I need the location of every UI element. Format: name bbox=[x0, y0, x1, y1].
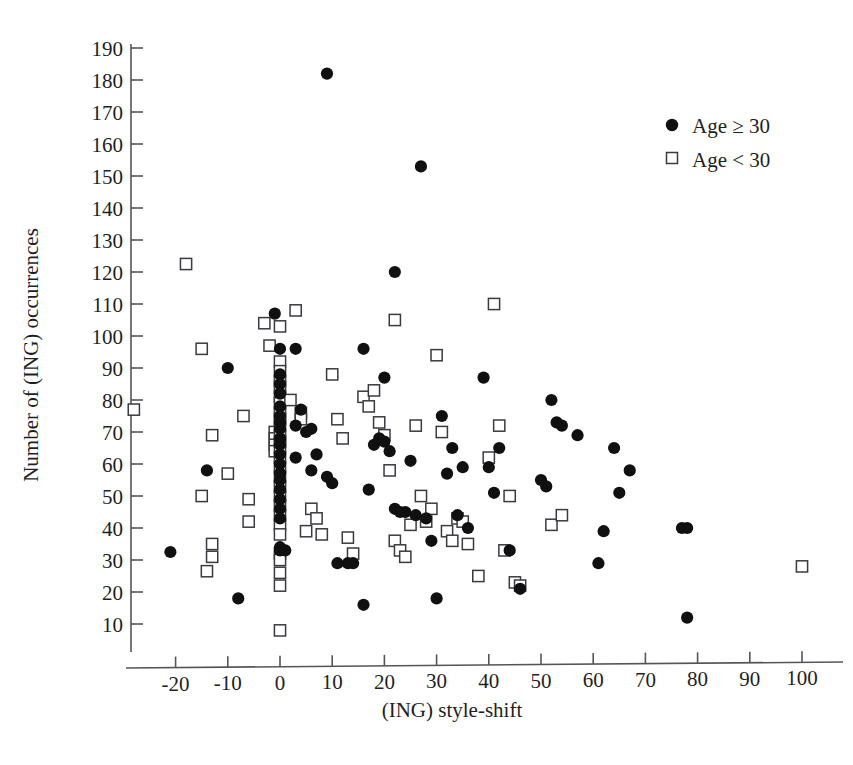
data-point-filled-circle bbox=[321, 68, 333, 80]
data-point-filled-circle bbox=[613, 487, 625, 499]
data-point-filled-circle bbox=[571, 429, 583, 441]
data-point-filled-circle bbox=[624, 464, 636, 476]
data-point-open-square bbox=[128, 404, 139, 415]
data-point-filled-circle bbox=[493, 442, 505, 454]
series-age-under-30-points bbox=[128, 258, 807, 636]
data-point-filled-circle bbox=[279, 544, 291, 556]
data-point-filled-circle bbox=[384, 445, 396, 457]
data-point-filled-circle bbox=[681, 612, 693, 624]
data-point-open-square bbox=[337, 433, 348, 444]
y-tick-label: 60 bbox=[102, 453, 123, 477]
data-point-filled-circle bbox=[451, 509, 463, 521]
data-point-open-square bbox=[462, 538, 473, 549]
data-point-filled-circle bbox=[222, 362, 234, 374]
data-point-filled-circle bbox=[389, 266, 401, 278]
data-point-filled-circle bbox=[592, 557, 604, 569]
data-point-filled-circle bbox=[446, 442, 458, 454]
data-point-open-square bbox=[415, 490, 426, 501]
data-point-open-square bbox=[332, 414, 343, 425]
y-tick-label: 100 bbox=[92, 325, 124, 349]
y-tick-label: 70 bbox=[102, 421, 123, 445]
data-point-filled-circle bbox=[269, 308, 281, 320]
data-point-open-square bbox=[389, 314, 400, 325]
data-point-open-square bbox=[259, 318, 270, 329]
data-point-filled-circle bbox=[457, 461, 469, 473]
data-point-open-square bbox=[201, 566, 212, 577]
data-point-open-square bbox=[238, 410, 249, 421]
data-point-filled-circle bbox=[290, 452, 302, 464]
data-point-open-square bbox=[274, 580, 285, 591]
legend-marker-open-square bbox=[667, 153, 678, 164]
data-point-filled-circle bbox=[305, 423, 317, 435]
data-point-open-square bbox=[180, 258, 191, 269]
data-point-filled-circle bbox=[310, 448, 322, 460]
data-point-open-square bbox=[316, 529, 327, 540]
y-axis-title: Number of (ING) occurrences bbox=[19, 228, 43, 482]
data-point-filled-circle bbox=[431, 592, 443, 604]
data-point-open-square bbox=[504, 490, 515, 501]
data-point-filled-circle bbox=[164, 546, 176, 558]
data-point-filled-circle bbox=[331, 557, 343, 569]
y-tick-label: 50 bbox=[102, 485, 123, 509]
data-point-open-square bbox=[274, 321, 285, 332]
data-point-open-square bbox=[488, 298, 499, 309]
x-tick-label: -20 bbox=[162, 672, 190, 696]
data-point-open-square bbox=[327, 369, 338, 380]
data-point-filled-circle bbox=[504, 544, 516, 556]
y-tick-label: 110 bbox=[92, 293, 123, 317]
data-point-open-square bbox=[363, 401, 374, 412]
plot-canvas: Number of (ING) occurrences (ING) style-… bbox=[0, 0, 853, 765]
data-point-open-square bbox=[368, 385, 379, 396]
x-tick-label: 30 bbox=[426, 669, 447, 693]
data-point-open-square bbox=[290, 305, 301, 316]
data-point-filled-circle bbox=[425, 535, 437, 547]
y-tick-label: 150 bbox=[92, 165, 124, 189]
data-point-open-square bbox=[431, 350, 442, 361]
data-point-open-square bbox=[796, 561, 807, 572]
data-point-filled-circle bbox=[363, 484, 375, 496]
x-tick-label: 60 bbox=[583, 668, 604, 692]
y-tick-label: 140 bbox=[92, 197, 124, 221]
data-point-filled-circle bbox=[201, 464, 213, 476]
data-point-open-square bbox=[374, 417, 385, 428]
data-point-filled-circle bbox=[477, 372, 489, 384]
data-point-open-square bbox=[207, 538, 218, 549]
data-point-open-square bbox=[410, 420, 421, 431]
data-point-open-square bbox=[556, 510, 567, 521]
data-point-open-square bbox=[222, 468, 233, 479]
y-tick-label: 40 bbox=[102, 517, 123, 541]
data-point-filled-circle bbox=[483, 461, 495, 473]
data-point-filled-circle bbox=[540, 480, 552, 492]
data-point-open-square bbox=[384, 465, 395, 476]
data-point-open-square bbox=[207, 551, 218, 562]
data-point-filled-circle bbox=[357, 343, 369, 355]
data-point-open-square bbox=[207, 430, 218, 441]
y-tick-label: 10 bbox=[102, 613, 123, 637]
legend-label-age-30-plus: Age ≥ 30 bbox=[692, 114, 770, 138]
data-point-filled-circle bbox=[556, 420, 568, 432]
y-tick-label: 170 bbox=[92, 101, 124, 125]
x-tick-label: 0 bbox=[275, 671, 286, 695]
data-point-open-square bbox=[274, 567, 285, 578]
data-point-open-square bbox=[342, 532, 353, 543]
x-axis-ticks: -20-100102030405060708090100 bbox=[162, 651, 818, 695]
data-point-filled-circle bbox=[462, 522, 474, 534]
x-tick-label: 10 bbox=[322, 670, 343, 694]
legend: Age ≥ 30 Age < 30 bbox=[666, 114, 771, 172]
data-point-filled-circle bbox=[290, 343, 302, 355]
x-tick-label: 20 bbox=[374, 670, 395, 694]
y-axis-ticks: 1020304050607080901001101201301401501601… bbox=[92, 37, 144, 637]
legend-label-age-under-30: Age < 30 bbox=[692, 148, 770, 172]
x-tick-label: 90 bbox=[739, 667, 760, 691]
y-tick-label: 90 bbox=[102, 357, 123, 381]
data-point-filled-circle bbox=[404, 455, 416, 467]
y-tick-label: 160 bbox=[92, 133, 124, 157]
data-point-filled-circle bbox=[378, 372, 390, 384]
data-point-open-square bbox=[196, 343, 207, 354]
x-tick-label: 100 bbox=[786, 666, 818, 690]
data-point-filled-circle bbox=[347, 557, 359, 569]
scatter-plot-figure: Number of (ING) occurrences (ING) style-… bbox=[0, 0, 853, 765]
data-point-filled-circle bbox=[274, 388, 286, 400]
data-point-filled-circle bbox=[598, 525, 610, 537]
data-point-filled-circle bbox=[436, 410, 448, 422]
